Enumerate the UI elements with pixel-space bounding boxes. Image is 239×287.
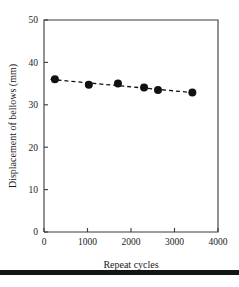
y-tick-label: 20 — [29, 143, 39, 153]
x-axis-ticks: 01000200030004000 — [42, 228, 228, 247]
x-tick-label: 0 — [42, 237, 47, 247]
data-point-marker — [188, 89, 196, 97]
figure-container: 01020304050 01000200030004000 Repeat cyc… — [0, 0, 239, 287]
displacement-vs-repeat-cycles-chart: 01020304050 01000200030004000 Repeat cyc… — [0, 0, 239, 287]
plot-frame — [44, 20, 218, 232]
y-tick-label: 0 — [33, 227, 38, 237]
page-divider-rule — [0, 270, 239, 275]
x-tick-label: 2000 — [122, 237, 141, 247]
y-axis-label: Displacement of bellows (mm) — [7, 64, 19, 188]
data-point-marker — [114, 80, 122, 88]
y-tick-label: 10 — [29, 185, 39, 195]
axes-frame — [44, 20, 218, 232]
y-tick-label: 50 — [29, 15, 39, 25]
data-point-marker — [51, 75, 59, 83]
x-tick-label: 3000 — [165, 237, 184, 247]
data-point-marker — [85, 81, 93, 89]
y-tick-label: 40 — [29, 58, 39, 68]
x-tick-label: 1000 — [78, 237, 97, 247]
x-tick-label: 4000 — [209, 237, 228, 247]
data-point-marker — [140, 83, 148, 91]
x-axis-label: Repeat cycles — [103, 259, 158, 270]
data-point-marker — [154, 86, 162, 94]
trend-line — [51, 79, 197, 93]
y-tick-label: 30 — [29, 100, 39, 110]
trend-line-group — [51, 79, 197, 93]
y-axis-ticks: 01020304050 — [29, 15, 49, 237]
